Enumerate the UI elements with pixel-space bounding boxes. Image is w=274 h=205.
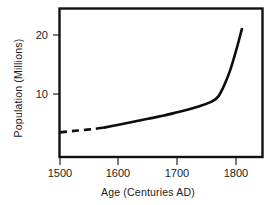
chart-canvas: 20 10 1500 1600 1700 1800 Age (Centuries…	[0, 0, 274, 205]
x-tick-label-1800: 1800	[224, 167, 248, 179]
population-chart-figure: 20 10 1500 1600 1700 1800 Age (Centuries…	[0, 0, 274, 205]
population-curve-estimated	[60, 128, 104, 133]
x-tick-label-1700: 1700	[165, 167, 189, 179]
plot-frame	[60, 9, 263, 158]
x-tick-label-1600: 1600	[106, 167, 130, 179]
y-tick-label-10: 10	[36, 88, 48, 100]
y-axis-title: Population (Millions)	[12, 39, 24, 138]
population-curve-recorded	[104, 29, 242, 128]
x-axis-title: Age (Centuries AD)	[101, 186, 195, 198]
y-tick-label-20: 20	[36, 29, 48, 41]
x-tick-label-1500: 1500	[48, 167, 72, 179]
